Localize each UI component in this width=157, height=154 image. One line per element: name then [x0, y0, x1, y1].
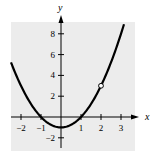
y-tick-label: 8: [51, 29, 56, 39]
plot-background: [11, 22, 135, 151]
x-tick-label: −2: [16, 123, 26, 133]
y-tick-label: 4: [51, 70, 56, 80]
y-axis-label: y: [57, 2, 63, 13]
parabola-chart: −2−1123−22468 x y: [0, 0, 157, 154]
y-axis-arrow-icon: [59, 15, 64, 23]
open-circle-point: [99, 83, 104, 88]
y-tick-label: −2: [45, 133, 55, 143]
x-tick-label: 3: [119, 123, 124, 133]
x-tick-label: 1: [79, 123, 84, 133]
x-tick-label: −1: [36, 123, 46, 133]
y-tick-label: 6: [51, 50, 56, 60]
x-axis-label: x: [144, 111, 150, 122]
x-tick-label: 2: [99, 123, 104, 133]
y-tick-label: 2: [51, 91, 56, 101]
